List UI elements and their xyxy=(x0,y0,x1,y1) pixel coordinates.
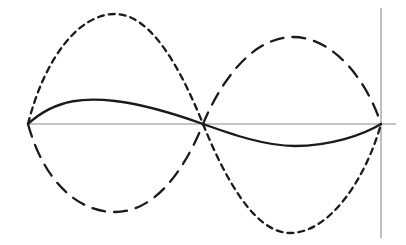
plot-canvas xyxy=(0,0,406,245)
mode-shape-figure xyxy=(0,0,406,245)
